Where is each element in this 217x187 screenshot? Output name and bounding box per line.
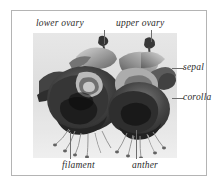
leader-line-lower-ovary: [104, 30, 105, 44]
flower-photo-artwork: [33, 33, 177, 158]
leader-line-anther: [136, 130, 137, 159]
label-sepal: sepal: [183, 62, 204, 73]
figure-root: lower ovary upper ovary sepal corolla fi…: [0, 0, 217, 187]
label-corolla: corolla: [183, 92, 212, 103]
label-upper-ovary: upper ovary: [116, 18, 164, 29]
label-anther: anther: [132, 160, 158, 171]
leader-line-upper-ovary: [151, 30, 152, 42]
leader-line-filament: [70, 132, 71, 159]
label-filament: filament: [62, 160, 95, 171]
label-lower-ovary: lower ovary: [36, 18, 84, 29]
flower-photograph: [33, 33, 177, 158]
